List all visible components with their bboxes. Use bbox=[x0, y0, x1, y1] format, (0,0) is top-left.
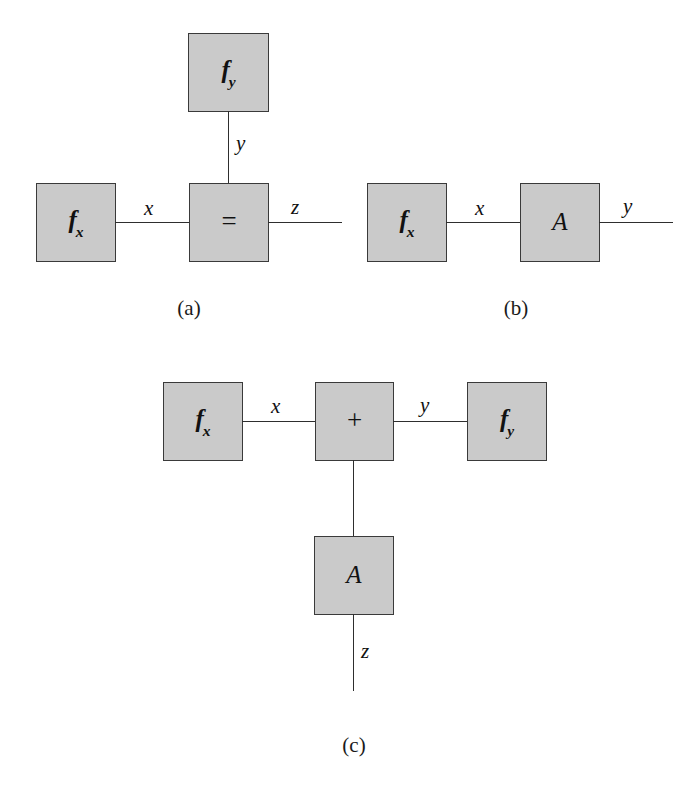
panel-a-node-fy-label: fy bbox=[221, 57, 235, 87]
panel-a-node-fx: fx bbox=[36, 183, 116, 262]
panel-c-node-a-label: A bbox=[346, 562, 361, 587]
panel-c-node-fy: fy bbox=[467, 382, 547, 461]
panel-a-node-equals: = bbox=[189, 183, 269, 262]
panel-c-edge-x-label: x bbox=[271, 396, 280, 417]
panel-b-node-fx-label: fx bbox=[399, 207, 414, 237]
panel-a-node-fy: fy bbox=[188, 33, 269, 112]
panel-b-caption: (b) bbox=[479, 298, 553, 319]
panel-a-edge-y-line bbox=[228, 111, 229, 184]
panel-b-edge-y-line bbox=[599, 222, 673, 223]
panel-c-caption: (c) bbox=[317, 735, 391, 756]
panel-a-edge-x-line bbox=[115, 222, 190, 223]
panel-c-edge-plus-a-line bbox=[353, 460, 354, 537]
panel-a-edge-z-line bbox=[268, 222, 342, 223]
panel-c-node-fx-label: fx bbox=[195, 406, 210, 436]
panel-c-node-plus-label: + bbox=[347, 407, 362, 434]
panel-b-edge-y-label: y bbox=[623, 196, 632, 217]
panel-c-edge-z-label: z bbox=[361, 641, 369, 662]
panel-b-node-fx: fx bbox=[367, 183, 447, 262]
factor-graph-figure: fy y fx x = z (a) fx x A bbox=[0, 0, 699, 788]
panel-c-edge-y-line bbox=[393, 421, 468, 422]
panel-a-caption: (a) bbox=[152, 298, 226, 319]
panel-b-edge-x-line bbox=[446, 222, 521, 223]
panel-a-edge-x-label: x bbox=[144, 198, 153, 219]
panel-c-node-a: A bbox=[314, 536, 394, 615]
panel-c-node-fx: fx bbox=[163, 382, 243, 461]
panel-a-node-fx-label: fx bbox=[68, 207, 83, 237]
panel-c-node-fy-label: fy bbox=[500, 406, 514, 436]
panel-a-edge-y-label: y bbox=[236, 133, 245, 154]
panel-c-edge-z-line bbox=[353, 614, 354, 691]
panel-b-node-a-label: A bbox=[552, 209, 567, 234]
panel-b-edge-x-label: x bbox=[475, 198, 484, 219]
panel-b-node-a: A bbox=[520, 183, 600, 262]
panel-a-edge-z-label: z bbox=[291, 197, 299, 218]
panel-a-node-equals-label: = bbox=[221, 208, 236, 235]
panel-c-edge-x-line bbox=[242, 421, 316, 422]
panel-c-edge-y-label: y bbox=[420, 395, 429, 416]
panel-c-node-plus: + bbox=[315, 382, 394, 461]
